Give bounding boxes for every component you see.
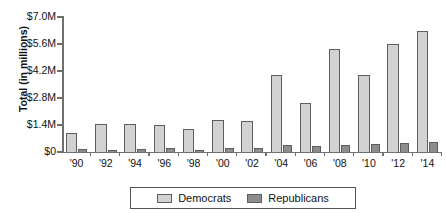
bar-democrats	[329, 49, 341, 152]
x-tick-label: '94	[120, 157, 149, 169]
x-tick-mark	[236, 152, 237, 156]
bar-republicans	[137, 149, 146, 152]
bar-republicans	[166, 148, 175, 152]
x-tick-mark	[90, 152, 91, 156]
bar-democrats	[95, 124, 107, 152]
x-tick-mark	[295, 152, 296, 156]
x-tick-label: '08	[325, 157, 354, 169]
x-tick-mark	[148, 152, 149, 156]
bar-republicans	[341, 145, 350, 152]
bar-republicans	[195, 150, 204, 152]
legend-label-democrats: Democrats	[178, 192, 231, 204]
legend-label-republicans: Republicans	[268, 192, 329, 204]
bar-group	[325, 17, 354, 152]
x-tick-label: '90	[62, 157, 91, 169]
bar-democrats	[358, 75, 370, 152]
x-tick-label: '96	[150, 157, 179, 169]
bar-group	[91, 17, 120, 152]
legend-item-republicans: Republicans	[247, 192, 329, 204]
bar-group	[267, 17, 296, 152]
y-tick-label: $4.2M	[0, 64, 56, 76]
x-tick-label: '10	[354, 157, 383, 169]
y-tick-label: $5.6M	[0, 37, 56, 49]
x-tick-label: '12	[384, 157, 413, 169]
bar-republicans	[312, 146, 321, 152]
x-tick-mark	[382, 152, 383, 156]
x-tick-label: '92	[91, 157, 120, 169]
x-tick-mark	[441, 152, 442, 156]
legend-swatch-democrats	[157, 194, 172, 203]
bar-group	[208, 17, 237, 152]
bar-democrats	[241, 121, 253, 152]
bar-group	[354, 17, 383, 152]
bar-chart: Total (in millions) $7.0M$5.6M$4.2M$2.8M…	[0, 0, 446, 213]
bar-democrats	[417, 31, 429, 153]
x-tick-mark	[178, 152, 179, 156]
bar-groups	[62, 17, 442, 152]
bar-democrats	[154, 125, 166, 152]
bar-republicans	[78, 149, 87, 152]
bar-republicans	[108, 150, 117, 152]
bar-republicans	[400, 143, 409, 152]
y-tick-label: $2.8M	[0, 91, 56, 103]
legend-swatch-republicans	[247, 194, 262, 203]
x-tick-mark	[353, 152, 354, 156]
bar-democrats	[387, 44, 399, 152]
bar-democrats	[183, 129, 195, 152]
y-tick-label: $0	[0, 145, 56, 157]
x-tick-label: '14	[413, 157, 442, 169]
y-tick-label: $1.4M	[0, 118, 56, 130]
bar-group	[296, 17, 325, 152]
x-tick-mark	[412, 152, 413, 156]
x-tick-label: '98	[179, 157, 208, 169]
bar-republicans	[225, 148, 234, 152]
bar-republicans	[254, 148, 263, 152]
bar-democrats	[124, 124, 136, 152]
x-axis-labels: '90'92'94'96'98'00'02'04'06'08'10'12'14	[62, 157, 442, 169]
bar-group	[120, 17, 149, 152]
bar-republicans	[371, 144, 380, 152]
bar-group	[150, 17, 179, 152]
x-tick-label: '04	[267, 157, 296, 169]
bar-group	[384, 17, 413, 152]
bar-democrats	[212, 120, 224, 152]
bar-group	[413, 17, 442, 152]
bar-democrats	[66, 133, 78, 152]
x-tick-label: '06	[296, 157, 325, 169]
chart-title-fragment	[96, 0, 316, 2]
legend-item-democrats: Democrats	[157, 192, 231, 204]
x-tick-label: '02	[237, 157, 266, 169]
x-tick-mark	[207, 152, 208, 156]
bar-group	[179, 17, 208, 152]
x-tick-label: '00	[208, 157, 237, 169]
x-tick-mark	[265, 152, 266, 156]
x-tick-mark	[324, 152, 325, 156]
x-tick-mark	[119, 152, 120, 156]
bar-group	[237, 17, 266, 152]
bar-republicans	[283, 145, 292, 152]
chart-legend: Democrats Republicans	[130, 187, 356, 209]
y-tick-label: $7.0M	[0, 10, 56, 22]
bar-group	[62, 17, 91, 152]
bar-democrats	[271, 75, 283, 152]
bar-democrats	[300, 103, 312, 152]
bar-republicans	[429, 142, 438, 152]
